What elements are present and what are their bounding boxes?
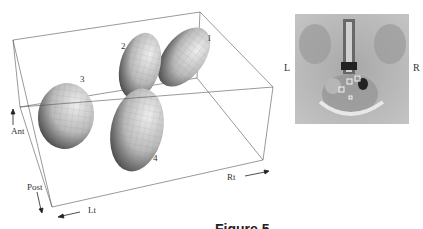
image-label-left: L: [284, 62, 290, 73]
axis-label-anterior: Ant: [11, 126, 25, 136]
ellipsoid-label-1: 1: [207, 33, 212, 43]
image-label-right: R: [413, 62, 420, 73]
axis-label-posterior: Post: [27, 182, 43, 192]
axis-label-right: Rt: [227, 172, 236, 182]
ellipsoid-label-3: 3: [80, 74, 85, 84]
3d-ellipsoid-plot: [0, 0, 290, 229]
axis-label-left: Lt: [88, 205, 96, 215]
ellipsoid-label-2: 2: [121, 41, 126, 51]
figure-caption: Figure 5: [215, 219, 269, 229]
ellipsoid-label-4: 4: [153, 153, 158, 163]
mri-image: [295, 14, 409, 124]
ellipsoid-3: [34, 79, 99, 152]
